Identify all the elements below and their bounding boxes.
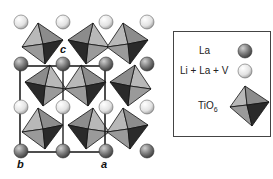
la-sphere (56, 57, 70, 71)
axis-label-c: c (60, 43, 66, 55)
tio6-octahedron (25, 65, 66, 106)
tio6-octahedron (107, 108, 148, 149)
tio6-octahedron (22, 108, 63, 149)
li-la-v-sphere-icon (237, 63, 253, 79)
la-sphere (99, 57, 113, 71)
tio6-octahedron (22, 23, 63, 64)
li-la-v-sphere (99, 100, 113, 114)
tio6-octahedron (110, 65, 151, 106)
la-sphere (56, 144, 70, 158)
li-la-v-sphere (14, 100, 28, 114)
tio6-octahedron (107, 23, 148, 64)
li-la-v-sphere (56, 15, 70, 29)
tio6-octahedron (65, 65, 106, 106)
li-la-v-sphere (56, 100, 70, 114)
la-sphere (140, 57, 154, 71)
crystal-structure-diagram (0, 0, 170, 179)
la-sphere (140, 144, 154, 158)
la-sphere (14, 144, 28, 158)
li-la-v-sphere (140, 15, 154, 29)
legend-box: La Li + La + V TiO6 (173, 31, 271, 137)
octahedra-layer (22, 23, 151, 149)
la-sphere (99, 144, 113, 158)
la-sphere-icon (237, 43, 253, 59)
li-la-v-sphere (140, 100, 154, 114)
legend-label-la: La (199, 45, 210, 56)
legend-label-tio6: TiO6 (198, 100, 218, 113)
tio6-octahedron (68, 108, 109, 149)
li-la-v-sphere (99, 15, 113, 29)
legend-label-li-la-v: Li + La + V (180, 65, 228, 76)
li-la-v-sphere (14, 15, 28, 29)
tio6-octahedron-icon (228, 83, 270, 131)
axis-label-b: b (17, 158, 24, 170)
axis-label-a: a (101, 158, 107, 170)
la-sphere (14, 57, 28, 71)
